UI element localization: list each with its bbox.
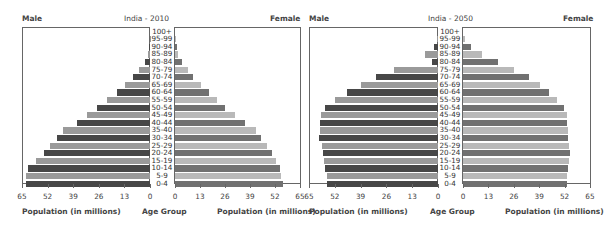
- female-bar: [463, 112, 567, 118]
- male-bar: [321, 112, 438, 118]
- female-header: Female: [563, 14, 593, 23]
- female-bar: [463, 67, 514, 73]
- male-bar: [327, 173, 438, 179]
- male-axis-tick: [412, 184, 413, 188]
- female-axis-tick-label: 52: [560, 192, 569, 201]
- female-bar: [463, 143, 569, 149]
- male-axis-tick-label: 39: [356, 192, 365, 201]
- male-bar: [347, 89, 438, 95]
- female-bar: [463, 158, 569, 164]
- female-axis-title: Population (in millions): [505, 207, 604, 216]
- male-bar: [394, 67, 438, 73]
- male-bar: [325, 165, 438, 171]
- age-group-label: 0-4: [438, 180, 462, 188]
- male-axis-tick: [335, 184, 336, 188]
- chart-title: India - 2050: [428, 14, 473, 23]
- female-bar: [463, 173, 567, 179]
- male-bar: [322, 143, 438, 149]
- female-axis-tick-label: 39: [535, 192, 544, 201]
- male-bar: [361, 82, 438, 88]
- male-bar: [437, 36, 438, 42]
- female-axis-tick-label: 0: [461, 192, 466, 201]
- female-axis-tick: [565, 184, 566, 188]
- female-bar: [463, 36, 465, 42]
- female-axis-tick-label: 26: [509, 192, 518, 201]
- female-axis-tick: [488, 184, 489, 188]
- female-bar: [463, 59, 498, 65]
- male-bar: [320, 127, 438, 133]
- female-axis-tick-label: 13: [484, 192, 493, 201]
- male-bar: [376, 74, 438, 80]
- male-bar: [335, 97, 438, 103]
- female-axis-tick: [300, 184, 301, 188]
- female-axis-tick: [590, 184, 591, 188]
- female-bar: [463, 127, 568, 133]
- male-bar: [319, 135, 438, 141]
- female-axis-tick: [463, 184, 464, 188]
- male-bar: [325, 105, 438, 111]
- female-bar: [463, 44, 471, 50]
- age-axis-title: Age Group: [430, 207, 475, 216]
- female-axis-tick: [514, 184, 515, 188]
- female-bar: [463, 82, 540, 88]
- male-bar: [432, 59, 438, 65]
- female-bar: [463, 165, 568, 171]
- age-group-column: 100+95-9990-9485-8980-8475-7970-7465-696…: [438, 27, 462, 184]
- male-bar: [324, 158, 438, 164]
- male-bar: [327, 181, 438, 187]
- female-bar: [463, 150, 570, 156]
- male-header: Male: [309, 14, 329, 23]
- male-axis-tick-label: 13: [408, 192, 417, 201]
- male-bar: [434, 44, 438, 50]
- female-axis-tick: [539, 184, 540, 188]
- female-bar: [463, 89, 549, 95]
- male-axis-tick-label: 52: [330, 192, 339, 201]
- female-bar: [463, 120, 567, 126]
- male-axis-tick-label: 26: [382, 192, 391, 201]
- female-bar: [463, 74, 529, 80]
- female-bar: [463, 135, 568, 141]
- male-axis-tick-label: 0: [436, 192, 441, 201]
- male-axis-tick: [309, 184, 310, 188]
- female-bar: [463, 105, 564, 111]
- pyramid-2050: Male India - 2050 Female 100+95-9990-948…: [0, 0, 300, 229]
- male-axis-tick: [438, 184, 439, 188]
- female-axis-tick-label: 65: [585, 192, 594, 201]
- female-bar: [463, 97, 557, 103]
- male-axis-tick: [361, 184, 362, 188]
- male-bar: [323, 150, 438, 156]
- male-bar: [320, 120, 438, 126]
- male-axis-tick-label: 65: [304, 192, 313, 201]
- male-bar: [425, 51, 438, 57]
- female-bar: [463, 51, 482, 57]
- male-axis-title: Population (in millions): [309, 207, 408, 216]
- male-axis-tick: [386, 184, 387, 188]
